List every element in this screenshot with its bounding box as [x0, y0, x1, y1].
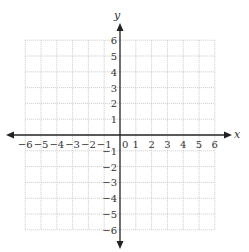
y-tick-label: −1: [102, 146, 117, 157]
y-tick-label: −3: [102, 177, 117, 188]
y-axis-arrow-down-icon: [117, 241, 124, 249]
origin-label: 0: [122, 139, 128, 150]
x-tick-label: 6: [212, 139, 218, 150]
y-tick-label: −5: [102, 209, 117, 220]
x-tick-label: −4: [49, 139, 64, 150]
x-tick-labels: −6−5−4−3−2−1123456: [18, 139, 218, 150]
y-tick-label: −6: [102, 225, 117, 236]
y-tick-label: 3: [111, 83, 117, 94]
y-axis-label: y: [113, 9, 121, 22]
y-tick-label: −4: [102, 193, 117, 204]
x-axis-label: x: [234, 128, 241, 141]
x-tick-label: 5: [196, 139, 202, 150]
x-tick-label: −3: [65, 139, 80, 150]
y-axis-arrow-up-icon: [117, 23, 124, 31]
y-tick-label: −2: [102, 162, 117, 173]
y-tick-label: 1: [111, 114, 117, 125]
x-axis-arrow-right-icon: [224, 132, 232, 139]
y-tick-label: 2: [111, 98, 117, 109]
x-tick-label: −5: [34, 139, 49, 150]
y-tick-label: 4: [111, 67, 117, 78]
y-tick-label: 6: [111, 35, 117, 46]
axes: [6, 23, 232, 249]
x-tick-label: 1: [133, 139, 139, 150]
x-tick-label: −2: [81, 139, 96, 150]
x-tick-label: 4: [180, 139, 186, 150]
x-axis-arrow-left-icon: [6, 132, 14, 139]
x-tick-label: −6: [18, 139, 33, 150]
y-tick-label: 5: [111, 51, 117, 62]
x-tick-label: 3: [164, 139, 170, 150]
x-tick-label: 2: [148, 139, 154, 150]
coordinate-plane: x y 0 −6−5−4−3−2−1123456 654321−1−2−3−4−…: [0, 0, 249, 252]
